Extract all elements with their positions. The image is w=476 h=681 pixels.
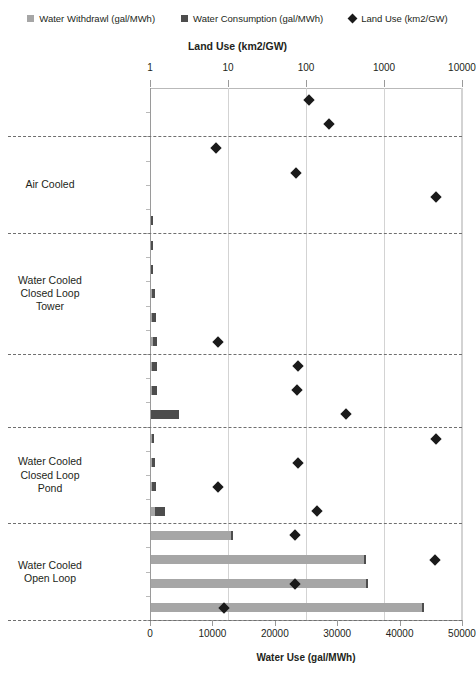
consumption-bar: [152, 386, 157, 395]
withdrawal-bar: [151, 603, 424, 612]
consumption-bar: [151, 216, 153, 225]
consumption-bar: [153, 337, 157, 346]
consumption-bar: [152, 458, 156, 467]
legend-label-withdrawal: Water Withdrawl (gal/MWh): [39, 13, 155, 24]
chart-row: [150, 233, 462, 257]
chart-row: [150, 88, 462, 112]
chart-row: [150, 451, 462, 475]
legend-label-consumption: Water Consumption (gal/MWh): [193, 13, 323, 24]
top-tick-mark: [462, 80, 463, 87]
land-use-marker: [212, 481, 223, 492]
square-icon: [27, 15, 34, 22]
consumption-bar: [366, 579, 368, 588]
bottom-axis-title: Water Use (gal/MWh): [150, 652, 462, 663]
bottom-tick-label: 10000: [198, 628, 226, 639]
land-use-marker: [213, 336, 224, 347]
consumption-bar: [152, 362, 157, 371]
diamond-icon: [348, 13, 358, 23]
group-label: Water CooledOpen Loop: [2, 559, 98, 585]
top-tick-mark: [150, 80, 151, 87]
legend-label-landuse: Land Use (km2/GW): [361, 13, 448, 24]
land-use-marker: [293, 457, 304, 468]
withdrawal-bar: [151, 555, 366, 564]
consumption-bar: [152, 313, 156, 322]
bottom-tick-label: 20000: [261, 628, 289, 639]
consumption-bar: [231, 531, 233, 540]
chart-row: [150, 112, 462, 136]
group-label: Water CooledClosed LoopPond: [2, 455, 98, 494]
top-tick-label: 1000: [373, 62, 395, 73]
land-use-marker: [324, 119, 335, 130]
chart-row: [150, 475, 462, 499]
chart-row: [150, 185, 462, 209]
chart-row: [150, 547, 462, 571]
bottom-tick-label: 30000: [323, 628, 351, 639]
square-icon: [181, 15, 188, 22]
land-use-marker: [431, 433, 442, 444]
top-tick-mark: [306, 80, 307, 87]
consumption-bar: [364, 555, 366, 564]
consumption-bar: [152, 434, 154, 443]
land-use-marker: [429, 554, 440, 565]
top-tick-label: 10: [222, 62, 233, 73]
consumption-bar: [151, 241, 153, 250]
chart-row: [150, 596, 462, 620]
consumption-bar: [152, 482, 156, 491]
chart-legend: Water Withdrawl (gal/MWh) Water Consumpt…: [0, 8, 475, 28]
bottom-tick-label: 40000: [386, 628, 414, 639]
group-separator: [8, 354, 462, 355]
chart-row: [150, 330, 462, 354]
chart-row: [150, 499, 462, 523]
land-use-marker: [292, 360, 303, 371]
consumption-bar: [155, 507, 164, 516]
chart-row: [150, 378, 462, 402]
chart-row: [150, 354, 462, 378]
land-use-marker: [304, 94, 315, 105]
chart-row: [150, 572, 462, 596]
land-use-marker: [430, 191, 441, 202]
top-tick-label: 100: [298, 62, 315, 73]
group-label: Water CooledClosed LoopTower: [2, 274, 98, 313]
chart-row: [150, 257, 462, 281]
legend-item-consumption: Water Consumption (gal/MWh): [181, 13, 323, 24]
chart-row: [150, 306, 462, 330]
top-axis-title: Land Use (km2/GW): [0, 40, 475, 52]
withdrawal-bar: [151, 579, 368, 588]
bottom-tick-label: 0: [147, 628, 153, 639]
group-separator: [8, 620, 462, 621]
land-use-marker: [341, 409, 352, 420]
withdrawal-bar: [151, 531, 233, 540]
chart-row: [150, 161, 462, 185]
land-use-marker: [210, 143, 221, 154]
land-use-marker: [291, 385, 302, 396]
chart-row: [150, 523, 462, 547]
legend-item-landuse: Land Use (km2/GW): [349, 13, 448, 24]
consumption-bar: [152, 289, 155, 298]
group-separator: [8, 523, 462, 524]
legend-item-withdrawal: Water Withdrawl (gal/MWh): [27, 13, 155, 24]
group-separator: [8, 136, 462, 137]
bottom-tick-mark: [462, 620, 463, 626]
chart-row: [150, 209, 462, 233]
top-tick-mark: [228, 80, 229, 87]
consumption-bar: [151, 410, 179, 419]
land-use-marker: [312, 505, 323, 516]
group-separator: [8, 427, 462, 428]
gridline: [462, 88, 463, 620]
consumption-bar: [151, 265, 153, 274]
chart-row: [150, 427, 462, 451]
top-tick-label: 10000: [448, 62, 476, 73]
consumption-bar: [422, 603, 424, 612]
bottom-tick-label: 50000: [448, 628, 476, 639]
chart-row: [150, 136, 462, 160]
group-label: Air Cooled: [2, 178, 98, 191]
top-tick-mark: [384, 80, 385, 87]
group-separator: [8, 233, 462, 234]
land-use-marker: [290, 530, 301, 541]
top-tick-label: 1: [147, 62, 153, 73]
chart-row: [150, 402, 462, 426]
land-use-marker: [291, 167, 302, 178]
chart-row: [150, 281, 462, 305]
